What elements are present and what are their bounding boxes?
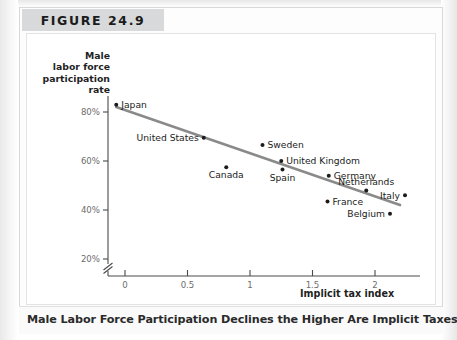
data-point [388, 212, 392, 216]
data-point [202, 136, 206, 140]
data-point [364, 188, 368, 192]
figure-caption: Male Labor Force Participation Declines … [27, 313, 437, 326]
data-point-label: Canada [209, 169, 244, 180]
x-tick-label: 2 [372, 280, 377, 290]
x-tick-label: 1.5 [306, 280, 320, 290]
data-point-label: Italy [380, 190, 400, 201]
x-tick-label: 0.5 [181, 280, 195, 290]
figure-container: FIGURE 24.9 Male labor force participati… [0, 0, 457, 340]
data-point-label: Sweden [268, 139, 304, 150]
data-point [114, 103, 118, 107]
data-point-label: France [333, 196, 364, 207]
y-tick-label: 40% [81, 205, 100, 215]
scatter-chart: 20%40%60%80%00.511.52 JapanUnited States… [0, 0, 457, 340]
x-tick-label: 0 [122, 280, 127, 290]
data-point-label: Spain [270, 172, 296, 183]
data-point [327, 174, 331, 178]
data-points: JapanUnited StatesSwedenUnited KingdomCa… [114, 99, 407, 219]
y-tick-label: 60% [81, 156, 100, 166]
data-point-label: Belgium [347, 208, 385, 219]
y-tick-label: 80% [81, 107, 100, 117]
data-point-label: United Kingdom [286, 155, 360, 166]
data-point [261, 143, 265, 147]
data-point [403, 193, 407, 197]
data-point-label: United States [137, 132, 199, 143]
data-point-label: Netherlands [338, 176, 394, 187]
y-tick-label: 20% [81, 254, 100, 264]
data-point [279, 159, 283, 163]
data-point [326, 199, 330, 203]
x-tick-label: 1 [247, 280, 252, 290]
data-point-label: Japan [120, 99, 147, 110]
chart-axes: 20%40%60%80%00.511.52 [81, 96, 420, 290]
